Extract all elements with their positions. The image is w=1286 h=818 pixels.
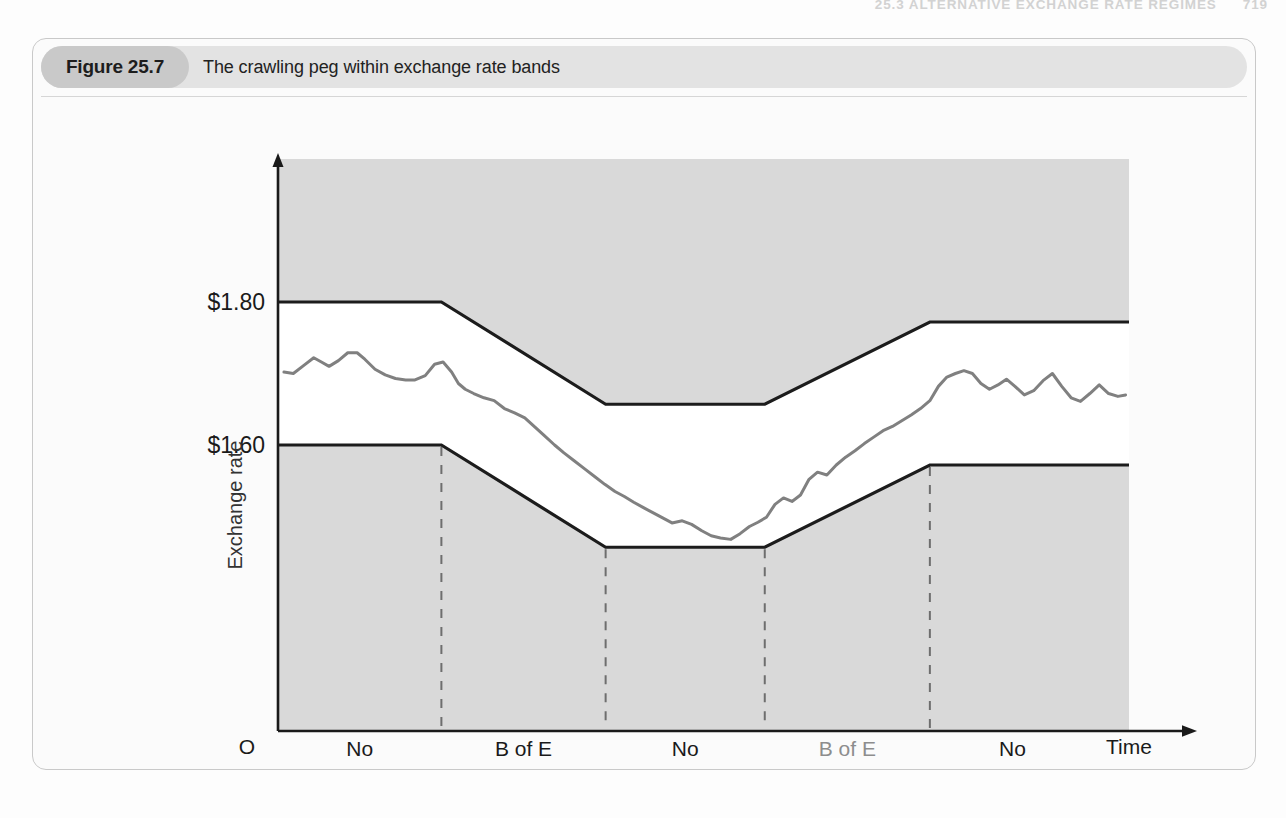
y-tick-label-180: $1.80 bbox=[207, 289, 265, 315]
phase-label-4-line-1: B of E bbox=[819, 737, 876, 760]
phase-label-5-line-1: No bbox=[999, 737, 1026, 760]
plot-area: $1.80 $1.60 Exchange rate O Time Nointer… bbox=[33, 97, 1256, 769]
x-axis-arrowhead bbox=[1182, 725, 1197, 737]
x-axis-title: Time bbox=[1106, 735, 1152, 758]
y-axis-title: Exchange rate bbox=[224, 441, 246, 570]
running-header: 25.3 ALTERNATIVE EXCHANGE RATE REGIMES71… bbox=[0, 0, 1286, 13]
origin-label: O bbox=[239, 735, 255, 758]
phase-label-1-line-1: No bbox=[346, 737, 373, 760]
running-header-page-number: 719 bbox=[1243, 0, 1268, 12]
crawling-peg-chart: $1.80 $1.60 Exchange rate O Time Nointer… bbox=[33, 97, 1256, 769]
phase-label-5-line-2: intervention bbox=[958, 765, 1067, 769]
phase-label-group: NointerventionB of Ebuys poundsNointerve… bbox=[305, 737, 1066, 769]
running-header-section: 25.3 ALTERNATIVE EXCHANGE RATE REGIMES bbox=[875, 0, 1217, 12]
y-tick-labels: $1.80 $1.60 bbox=[207, 289, 265, 458]
phase-label-3-line-1: No bbox=[672, 737, 699, 760]
phase-label-3-line-2: intervention bbox=[631, 765, 740, 769]
figure-caption: The crawling peg within exchange rate ba… bbox=[203, 46, 560, 88]
figure-number-chip: Figure 25.7 bbox=[41, 46, 189, 88]
phase-label-1-line-2: intervention bbox=[305, 765, 414, 769]
phase-label-4-line-2: sells pounds bbox=[789, 765, 906, 769]
phase-label-2-line-1: B of E bbox=[495, 737, 552, 760]
figure-box: Figure 25.7 The crawling peg within exch… bbox=[32, 38, 1256, 770]
phase-label-2-line-2: buys pounds bbox=[464, 765, 583, 769]
